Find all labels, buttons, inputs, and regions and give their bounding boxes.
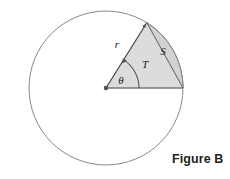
- segment-label: S: [160, 45, 166, 57]
- figure-container: r S T θ Figure B: [0, 0, 230, 179]
- figure-caption: Figure B: [172, 152, 224, 166]
- circle-center-dot: [104, 86, 109, 91]
- angle-theta-label: θ: [118, 74, 124, 86]
- triangle-label: T: [142, 58, 149, 70]
- radius-label: r: [115, 38, 120, 50]
